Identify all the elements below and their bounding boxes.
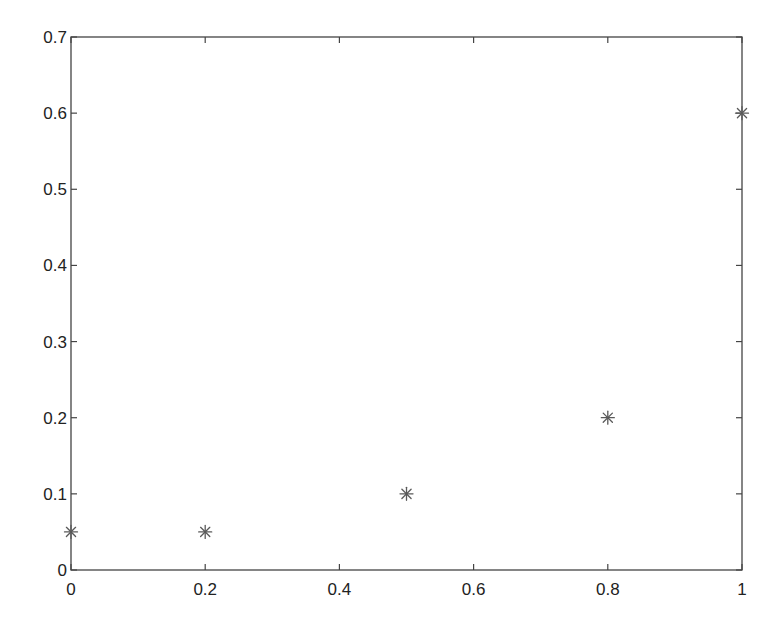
asterisk-marker (65, 525, 78, 538)
asterisk-marker (400, 487, 413, 500)
y-tick-label: 0.7 (43, 28, 67, 47)
x-tick-label: 1 (737, 580, 746, 599)
y-tick-label: 0.3 (43, 333, 67, 352)
x-tick-label: 0.6 (462, 580, 486, 599)
x-axis-tick-labels: 00.20.40.60.81 (66, 580, 746, 599)
data-points (65, 107, 749, 539)
x-tick-label: 0 (66, 580, 75, 599)
asterisk-marker (601, 411, 614, 424)
y-tick-label: 0.2 (43, 409, 67, 428)
asterisk-marker (736, 107, 749, 120)
asterisk-marker (199, 525, 212, 538)
y-axis-tick-labels: 00.10.20.30.40.50.60.7 (43, 28, 67, 580)
y-tick-label: 0 (58, 561, 67, 580)
y-tick-label: 0.1 (43, 485, 67, 504)
x-tick-label: 0.4 (328, 580, 352, 599)
x-tick-label: 0.2 (193, 580, 217, 599)
y-tick-label: 0.5 (43, 180, 67, 199)
y-tick-label: 0.6 (43, 104, 67, 123)
y-tick-label: 0.4 (43, 256, 67, 275)
x-tick-label: 0.8 (596, 580, 620, 599)
scatter-chart: 00.20.40.60.81 00.10.20.30.40.50.60.7 (0, 0, 775, 629)
